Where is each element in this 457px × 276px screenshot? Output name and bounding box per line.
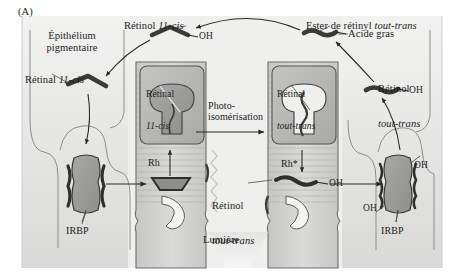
panel-identifier: (A) xyxy=(18,6,33,18)
label-disc-left: Rétinal 11-cis xyxy=(146,68,174,153)
label-retinol-11cis-top-name: Rétinol xyxy=(124,20,158,31)
label-oh-irbp-upper: OH xyxy=(414,160,428,171)
label-pigment-epithelium: Épithélium pigmentaire xyxy=(24,30,120,54)
label-retinal-11cis-outer-name: Rétinal xyxy=(25,74,59,85)
label-oh-top: OH xyxy=(199,31,213,42)
label-lumiere: Lumière xyxy=(203,234,239,246)
label-oh-retinol-middle: OH xyxy=(329,178,343,189)
label-disc-left-name: Rétinal xyxy=(146,89,174,100)
label-retinol-touttrans-right-state: tout-trans xyxy=(378,118,420,130)
label-retinal-11cis-outer-state: 11-cis xyxy=(59,74,84,85)
label-acide-gras: Acide gras xyxy=(348,28,394,40)
figure-panel-a: (A) Épithélium pigmentaire Rétinal 11-ci… xyxy=(0,0,457,276)
label-retinol-11cis-top-state: 11-cis xyxy=(158,20,183,31)
label-oh-retinol-right: OH xyxy=(409,85,423,96)
label-photoisomerisation: Photo- isomérisation xyxy=(208,100,263,122)
label-disc-right-state: tout-trans xyxy=(277,121,315,132)
label-disc-right-name: Rétinal xyxy=(277,89,315,100)
label-retinol-touttrans-middle-name: Rétinol xyxy=(212,200,254,212)
label-irbp-right: IRBP xyxy=(381,225,404,236)
label-retinol-touttrans-middle: Rétinol tout-trans xyxy=(212,176,254,270)
label-rhodopsin: Rh xyxy=(148,157,160,168)
label-oh-irbp-lower: OH xyxy=(363,203,377,214)
label-rhodopsin-activated: Rh* xyxy=(281,158,298,169)
label-retinol-touttrans-right: Rétinol tout-trans xyxy=(378,59,420,153)
label-disc-right: Rétinal tout-trans xyxy=(277,68,315,153)
label-retinal-11cis-outer: Rétinal 11-cis xyxy=(14,62,84,97)
label-irbp-left: IRBP xyxy=(66,225,89,236)
label-disc-left-state: 11-cis xyxy=(146,121,174,132)
rhodopsin-opsin-left xyxy=(152,178,190,190)
label-retinol-11cis-top: Rétinol 11-cis xyxy=(113,8,184,43)
